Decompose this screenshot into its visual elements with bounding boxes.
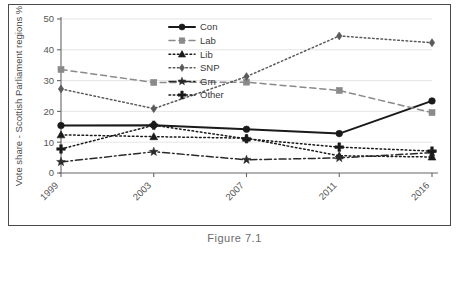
chart-frame: 01020304050Vote share - Scottish Parliam… (8, 4, 451, 226)
data-point-marker (179, 38, 185, 44)
figure-caption: Figure 7.1 (0, 232, 469, 244)
y-axis-title: Vote share - Scottish Parliament regions… (13, 5, 24, 186)
legend-label: Lab (200, 35, 216, 46)
data-point-marker (179, 24, 185, 30)
y-tick-label: 30 (43, 75, 54, 86)
data-point-marker (149, 121, 158, 130)
data-point-marker (335, 153, 344, 161)
data-point-marker (57, 131, 65, 138)
data-point-marker (178, 77, 186, 85)
x-tick-label: 2007 (223, 180, 246, 203)
data-point-marker (58, 67, 64, 73)
data-point-marker (429, 110, 435, 116)
data-point-marker (57, 145, 66, 154)
data-point-marker (58, 85, 63, 93)
y-tick-label: 50 (43, 13, 54, 24)
data-point-marker (336, 130, 343, 137)
data-point-marker (428, 147, 437, 156)
data-point-marker (337, 32, 342, 40)
legend-label: Other (200, 89, 224, 100)
x-tick-label: 1999 (38, 180, 61, 203)
data-point-marker (180, 64, 185, 71)
data-point-marker (243, 126, 250, 133)
legend-label: Lib (200, 49, 213, 60)
y-tick-label: 40 (43, 44, 54, 55)
figure-container: 01020304050Vote share - Scottish Parliam… (0, 0, 469, 281)
x-tick-label: 2011 (316, 180, 338, 202)
data-point-marker (429, 98, 436, 105)
legend-label: Grn (200, 76, 216, 87)
data-point-marker (151, 79, 157, 85)
data-point-marker (58, 122, 65, 129)
data-point-marker (149, 147, 158, 155)
x-tick-label: 2003 (130, 180, 153, 203)
x-tick-label: 2016 (409, 180, 432, 203)
line-chart: 01020304050Vote share - Scottish Parliam… (9, 5, 450, 225)
data-point-marker (336, 87, 342, 93)
y-tick-label: 10 (43, 137, 54, 148)
data-point-marker (335, 143, 344, 152)
data-point-marker (242, 155, 251, 163)
legend-label: SNP (200, 62, 220, 73)
legend-label: Con (200, 21, 217, 32)
y-tick-label: 0 (49, 167, 54, 178)
data-point-marker (429, 39, 434, 47)
y-tick-label: 20 (43, 106, 54, 117)
